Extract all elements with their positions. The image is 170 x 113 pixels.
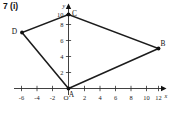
y-axis-arrow	[66, 4, 71, 10]
vertex-label-b: B	[161, 39, 166, 48]
x-axis-label: x	[164, 92, 168, 99]
x-tick-label-10: 10	[143, 94, 149, 101]
plot-svg: -6 -4 -2 O 2 4 6 8 10 12 2	[0, 0, 170, 113]
x-axis-arrow	[161, 86, 167, 91]
y-tick-label-2: 2	[60, 69, 63, 76]
y-tick-label-8: 8	[60, 21, 63, 28]
y-axis-tick-labels: 2 4 6 8 10	[57, 11, 64, 76]
coordinate-plot: -6 -4 -2 O 2 4 6 8 10 12 2	[0, 0, 170, 113]
x-tick-label-4: 4	[98, 94, 102, 101]
vertex-label-a: A	[69, 90, 75, 99]
figure-screenshot: 7 (i)	[0, 0, 170, 113]
y-tick-label-6: 6	[60, 37, 63, 44]
origin-label: O	[63, 94, 68, 102]
y-axis-label: y	[62, 2, 66, 9]
vertex-label-d: D	[12, 27, 18, 36]
vertex-label-c: C	[72, 9, 77, 18]
x-tick-label-6: 6	[114, 94, 117, 101]
x-tick-label--2: -2	[50, 94, 55, 101]
x-tick-label--6: -6	[19, 94, 24, 101]
x-tick-label-2: 2	[83, 94, 86, 101]
vertex-d-dot	[20, 31, 24, 35]
y-tick-label-4: 4	[60, 53, 64, 60]
x-tick-label--4: -4	[34, 94, 40, 101]
x-axis-tick-labels: -6 -4 -2 O 2 4 6 8 10 12	[19, 94, 162, 102]
quadrilateral-abcd	[22, 15, 159, 89]
x-tick-label-8: 8	[129, 94, 132, 101]
x-tick-label-12: 12	[155, 94, 161, 101]
vertex-c-dot	[67, 13, 71, 17]
y-axis	[66, 4, 71, 96]
